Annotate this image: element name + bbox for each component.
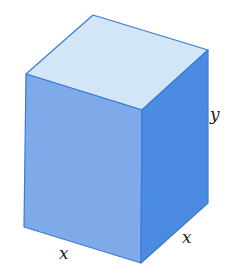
height-label: y <box>210 106 220 123</box>
box-diagram: y x x <box>0 0 231 277</box>
box-figure <box>0 0 231 277</box>
front-width-label: x <box>59 245 69 262</box>
depth-label: x <box>182 229 192 246</box>
